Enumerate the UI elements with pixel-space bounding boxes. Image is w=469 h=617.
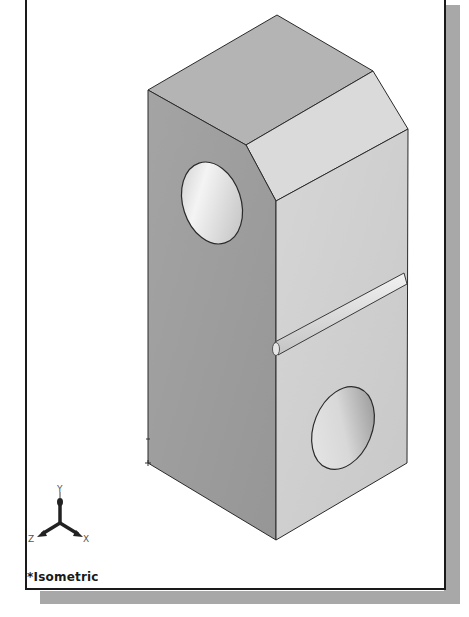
triad-label-y: Y	[56, 484, 63, 494]
triad-label-z: Z	[28, 534, 34, 544]
view-orientation-label: *Isometric	[27, 570, 99, 584]
reference-triad-icon: Y Z X	[28, 484, 89, 544]
triad-label-x: X	[83, 534, 89, 544]
model-scene[interactable]: Y Z X	[0, 0, 469, 617]
